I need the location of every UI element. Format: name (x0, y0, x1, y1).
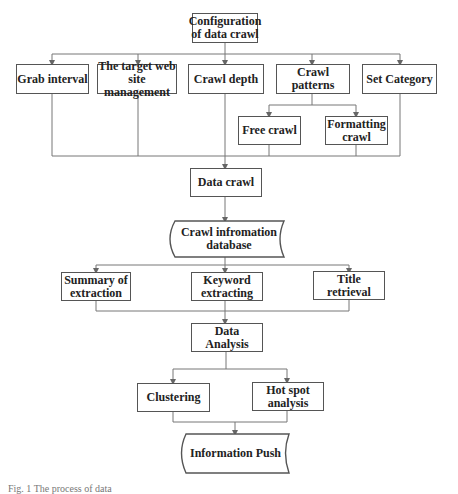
node-hot-spot: Hot spot analysis (252, 382, 324, 411)
node-set-category: Set Category (362, 64, 437, 94)
node-free-crawl: Free crawl (238, 116, 301, 145)
node-information-push: Information Push (182, 434, 289, 473)
node-keyword-extracting: Keyword extracting (191, 272, 263, 301)
node-data-analysis: Data Analysis (191, 323, 263, 352)
node-summary-extraction: Summary of extraction (61, 272, 131, 301)
node-data-crawl: Data crawl (190, 168, 262, 197)
node-target-site: The target web site management (97, 64, 177, 94)
node-formatting-crawl: Formatting crawl (325, 116, 388, 145)
node-grab-interval: Grab interval (16, 64, 89, 94)
node-config: Configuration of data crawl (192, 13, 258, 43)
figure-caption: Fig. 1 The process of data (8, 483, 112, 494)
node-crawl-depth: Crawl depth (188, 64, 264, 94)
node-crawl-db: Crawl infromation database (175, 221, 283, 257)
node-clustering: Clustering (137, 383, 210, 412)
node-title-retrieval: Title retrieval (313, 271, 385, 300)
node-crawl-patterns: Crawl patterns (276, 64, 350, 94)
